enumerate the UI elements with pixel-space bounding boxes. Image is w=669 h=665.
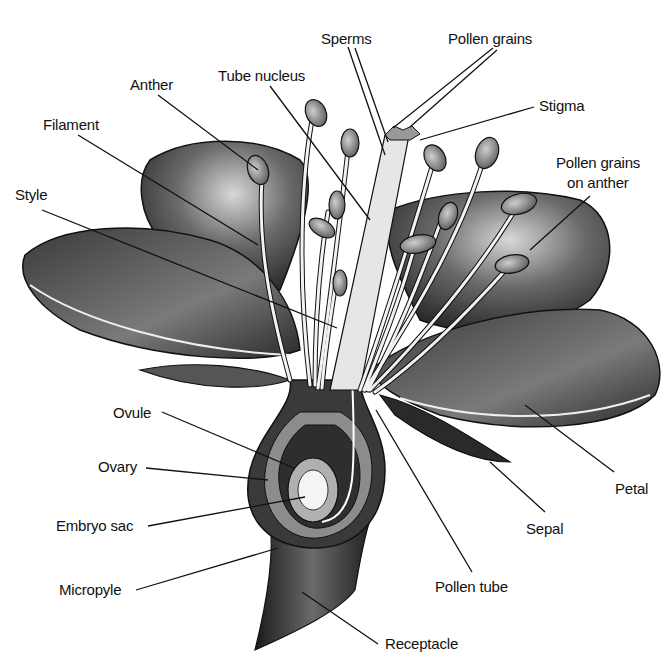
label-pollen-grains: Pollen grains	[448, 30, 532, 47]
label-ovary: Ovary	[98, 458, 137, 475]
label-receptacle: Receptacle	[385, 635, 458, 652]
label-style: Style	[15, 186, 47, 203]
label-sepal: Sepal	[526, 520, 563, 537]
sepal-left	[140, 365, 290, 387]
label-micropyle: Micropyle	[59, 581, 121, 598]
label-pollen-tube: Pollen tube	[435, 578, 508, 595]
label-tube-nucleus: Tube nucleus	[218, 67, 305, 84]
label-embryo-sac: Embryo sac	[56, 517, 133, 534]
label-sperms: Sperms	[321, 30, 371, 47]
label-ovule: Ovule	[113, 404, 151, 421]
label-pollen-grains-on-anther-line2: on anther	[567, 174, 629, 191]
embryo-sac	[298, 470, 328, 510]
label-petal: Petal	[615, 480, 648, 497]
label-stigma: Stigma	[539, 97, 585, 114]
label-pollen-grains-on-anther-line1: Pollen grains	[556, 154, 640, 171]
label-filament: Filament	[43, 116, 99, 133]
label-anther: Anther	[130, 76, 173, 93]
